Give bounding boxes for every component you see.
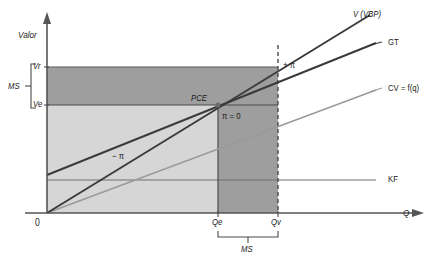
annotation-pce: PCE	[191, 94, 207, 103]
series-label-cv: CV = f(q)	[388, 84, 419, 93]
series-label-gt: GT	[388, 38, 399, 47]
annotation-pi-zero: π = 0	[222, 112, 240, 121]
bottom-bracket-path	[218, 231, 278, 237]
left-ms-bracket-label: MS	[8, 82, 20, 91]
y-tick-label-vr: Vr	[33, 62, 41, 71]
series-label-v-vbp: V (VBP)	[353, 10, 381, 19]
x-axis-title: Q	[403, 208, 409, 218]
bottom-ms-bracket-label: MS	[241, 245, 253, 254]
y-axis-title: Valor	[18, 30, 37, 40]
leader-cv	[370, 88, 382, 92]
annotation-pi-plus: + π	[283, 61, 295, 70]
x-axis-arrow	[412, 209, 424, 217]
series-label-kf: KF	[388, 175, 398, 184]
bottom-ms-bracket	[218, 231, 278, 243]
region-margin-band	[47, 67, 278, 105]
pce-point-marker	[215, 102, 220, 107]
series-label-leaders	[370, 42, 382, 92]
origin-label: 0	[35, 218, 40, 228]
region-safety-column	[218, 105, 278, 213]
cvp-chart: Valor Q 0 Vr Ve MS Qe Qv MS V (VBP) GT C…	[0, 0, 442, 267]
leader-gt	[370, 42, 382, 45]
x-tick-label-qe: Qe	[212, 218, 222, 227]
annotation-pi-minus: − π	[112, 152, 124, 161]
y-axis-arrow	[43, 12, 51, 24]
y-tick-label-ve: Ve	[33, 100, 42, 109]
x-tick-label-qv: Qv	[271, 218, 281, 227]
